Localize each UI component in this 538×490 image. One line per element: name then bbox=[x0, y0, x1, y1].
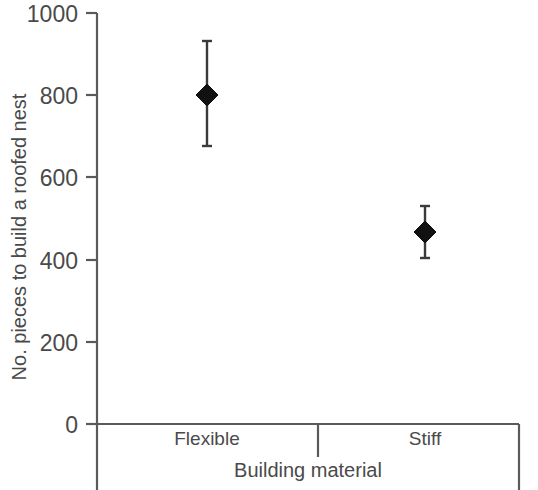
data-point-flexible bbox=[196, 41, 218, 146]
marker-diamond-flexible bbox=[196, 84, 218, 106]
x-axis-title: Building material bbox=[234, 459, 382, 481]
x-category-label-flexible: Flexible bbox=[174, 428, 239, 449]
x-category-label-stiff: Stiff bbox=[409, 428, 442, 449]
y-tick-label-1000: 1000 bbox=[27, 1, 78, 27]
y-tick-label-200: 200 bbox=[40, 330, 78, 356]
chart-figure: 1000 800 600 400 200 0 No. pieces to bui… bbox=[0, 0, 538, 490]
data-point-stiff bbox=[414, 206, 436, 258]
y-tick-label-800: 800 bbox=[40, 83, 78, 109]
y-tick-label-0: 0 bbox=[65, 412, 78, 438]
y-axis-title: No. pieces to build a roofed nest bbox=[8, 93, 30, 380]
error-bar-chart: 1000 800 600 400 200 0 No. pieces to bui… bbox=[0, 0, 538, 490]
y-tick-label-600: 600 bbox=[40, 165, 78, 191]
marker-diamond-stiff bbox=[414, 221, 436, 243]
y-tick-label-400: 400 bbox=[40, 248, 78, 274]
